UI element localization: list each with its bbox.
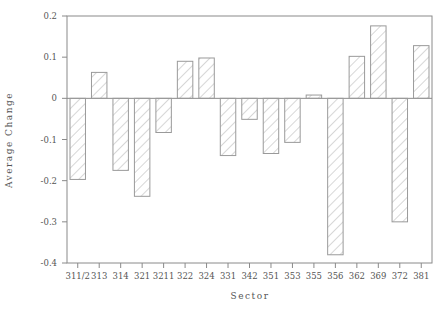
x-tick-label: 342 (241, 271, 257, 281)
bar-355 (306, 95, 321, 98)
x-tick-label: 369 (370, 271, 386, 281)
bars (70, 26, 429, 255)
bar-356 (328, 98, 343, 254)
bar-311-2 (70, 98, 85, 179)
x-tick-label: 372 (392, 271, 408, 281)
bar-331 (220, 98, 235, 155)
x-tick-label: 355 (306, 271, 322, 281)
y-tick-label: -0.1 (41, 135, 57, 145)
y-tick-label: 0.1 (43, 52, 57, 62)
bar-chart: 0.20.10-0.1-0.2-0.3-0.4 311/231331432132… (0, 0, 443, 312)
y-tick-label: 0 (52, 93, 57, 103)
bar-321 (134, 98, 149, 196)
bar-342 (242, 98, 257, 119)
y-tick-label: -0.2 (41, 176, 57, 186)
bar-353 (285, 98, 300, 142)
bar-362 (349, 56, 364, 98)
x-tick-label: 356 (327, 271, 343, 281)
x-tick-label: 3211 (153, 271, 175, 281)
x-axis-title: Sector (231, 291, 270, 301)
x-tick-label: 351 (263, 271, 279, 281)
bar-381 (414, 46, 429, 99)
x-tick-label: 331 (220, 271, 236, 281)
y-tick-label: 0.2 (43, 11, 57, 21)
x-tick-label: 322 (177, 271, 193, 281)
x-tick-label: 381 (413, 271, 429, 281)
x-tick-label: 321 (134, 271, 150, 281)
bar-372 (392, 98, 407, 222)
bar-3211 (156, 98, 171, 132)
x-tick-label: 311/2 (65, 271, 90, 281)
x-tick-label: 324 (198, 271, 214, 281)
x-tick-label: 313 (91, 271, 107, 281)
bar-324 (199, 58, 214, 98)
bar-369 (371, 26, 386, 98)
bar-313 (91, 72, 106, 98)
y-tick-label: -0.4 (41, 258, 57, 268)
bar-322 (177, 61, 192, 98)
y-tick-label: -0.3 (41, 217, 57, 227)
x-axis: 311/231331432132113223243313423513533553… (65, 263, 429, 281)
y-axis: 0.20.10-0.1-0.2-0.3-0.4 (41, 11, 67, 268)
bar-314 (113, 98, 128, 170)
x-tick-label: 362 (349, 271, 365, 281)
x-tick-label: 353 (284, 271, 300, 281)
x-tick-label: 314 (113, 271, 129, 281)
y-axis-title: Average Change (4, 92, 14, 189)
bar-351 (263, 98, 278, 153)
